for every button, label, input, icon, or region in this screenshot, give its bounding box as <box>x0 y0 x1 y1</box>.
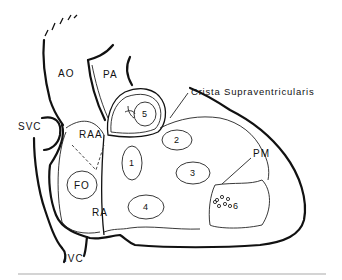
label-ao: AO <box>58 68 74 79</box>
heart-outline <box>49 88 305 247</box>
label-ivc: IVC <box>64 253 84 264</box>
label-crista: Crista Supraventricularis <box>191 86 314 97</box>
label-raa: RAA <box>79 129 103 140</box>
label-ra: RA <box>92 207 108 218</box>
region-2: 2 <box>174 135 179 145</box>
raa-boundary <box>72 145 104 170</box>
label-svc: SVC <box>18 121 42 132</box>
pm-leader <box>222 158 251 184</box>
label-pa: PA <box>103 69 118 80</box>
label-pm: PM <box>253 148 270 159</box>
divider <box>18 273 326 275</box>
region-5: 5 <box>142 109 147 119</box>
region-3: 3 <box>190 168 195 178</box>
crista-leader <box>170 93 188 118</box>
region-4: 4 <box>143 202 148 212</box>
heart-diagram: AO PA SVC RAA FO RA IVC Crista Supravent… <box>0 0 342 280</box>
label-fo: FO <box>74 180 90 191</box>
region-6: 6 <box>233 201 238 211</box>
region-1: 1 <box>129 158 134 168</box>
pulmonary-artery <box>92 57 132 118</box>
papillary-dots <box>213 195 231 207</box>
